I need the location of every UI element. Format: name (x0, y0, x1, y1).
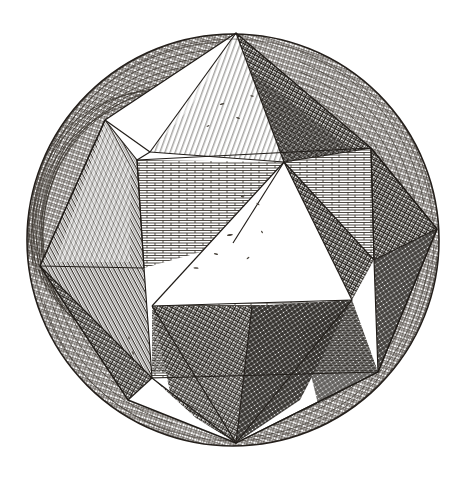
polyhedron-sphere-engraving (0, 0, 464, 477)
engraving-plate: stellated polyhedron inscribed in a sphe… (0, 0, 464, 477)
